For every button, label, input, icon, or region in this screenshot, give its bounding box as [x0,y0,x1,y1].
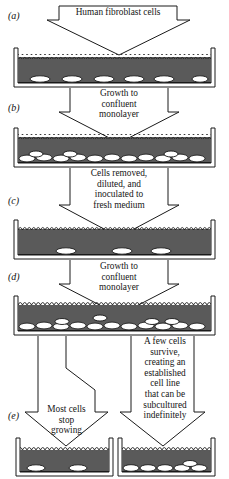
dish-d [14,296,215,335]
figure-canvas: (a) (b) (c) (d) (e) Human fibroblast cel… [0,0,229,479]
label-cells-removed-diluted: Cells removed, diluted, and inoculated t… [64,168,174,210]
dish-a [14,48,215,87]
panel-label-e: (e) [8,411,19,421]
panel-label-a: (a) [8,11,20,21]
label-most-cells-stop-growing: Most cells stop growing [30,404,103,436]
dish-b [14,128,215,167]
dish-e-left [16,438,113,476]
label-growth-to-confluent-monolayer-1: Growth to confluent monolayer [71,88,167,120]
label-human-fibroblast-cells: Human fibroblast cells [61,7,175,18]
label-growth-to-confluent-monolayer-2: Growth to confluent monolayer [71,261,167,293]
panel-label-b: (b) [8,103,20,113]
panel-label-c: (c) [8,196,19,206]
panel-label-d: (d) [8,272,20,282]
label-a-few-cells-survive: A few cells survive, creating an establi… [134,336,196,421]
dish-c [14,220,215,259]
